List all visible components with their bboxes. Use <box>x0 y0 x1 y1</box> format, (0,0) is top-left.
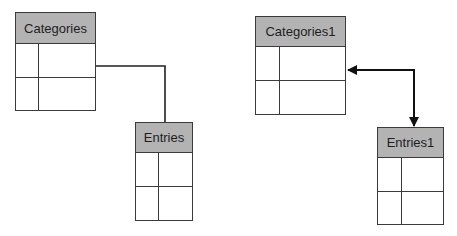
column-divider <box>279 47 280 114</box>
table-row <box>256 47 345 81</box>
table-categories1[interactable]: Categories1 <box>255 16 346 115</box>
table-entries[interactable]: Entries <box>135 122 193 221</box>
table-row <box>256 81 345 115</box>
table-row <box>16 78 95 111</box>
table-row <box>378 192 443 225</box>
column-divider <box>158 153 159 220</box>
table-header: Entries <box>136 123 192 153</box>
table-row <box>136 187 192 221</box>
table-row <box>16 44 95 78</box>
column-divider <box>401 158 402 224</box>
table-header: Categories <box>16 13 95 44</box>
table-entries1[interactable]: Entries1 <box>377 127 444 225</box>
table-header: Entries1 <box>378 128 443 158</box>
table-categories[interactable]: Categories <box>15 12 96 111</box>
table-header: Categories1 <box>256 17 345 47</box>
connector-categories1-entries1[interactable] <box>348 70 414 126</box>
table-row <box>378 158 443 192</box>
column-divider <box>38 44 39 110</box>
table-row <box>136 153 192 187</box>
connector-categories-entries[interactable] <box>95 66 165 122</box>
